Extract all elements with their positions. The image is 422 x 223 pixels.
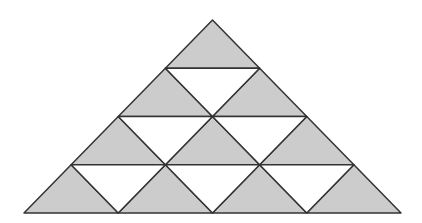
- triangle-layer: [24, 20, 401, 213]
- triangle-grid-diagram: [0, 0, 422, 223]
- shaded-up-triangle: [165, 20, 259, 68]
